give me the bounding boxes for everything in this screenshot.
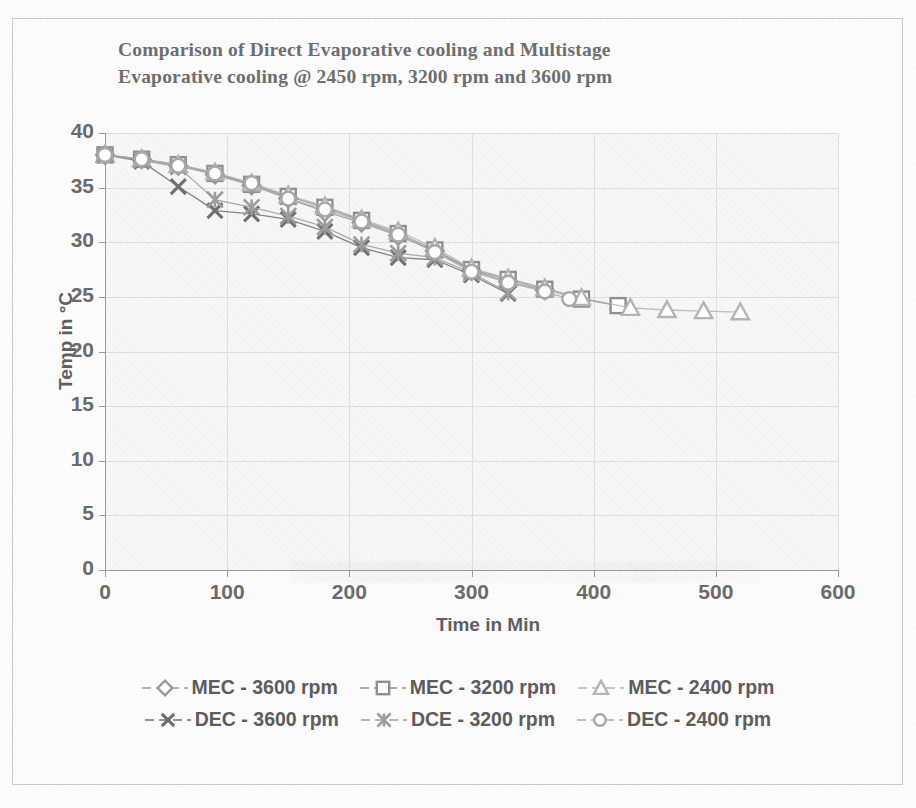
y-tick-label: 30 bbox=[48, 228, 94, 252]
legend-label: DCE - 3200 rpm bbox=[411, 708, 555, 731]
x-tick-label: 400 bbox=[559, 580, 629, 604]
y-tick-label: 35 bbox=[48, 174, 94, 198]
x-tick-mark bbox=[716, 570, 717, 577]
legend-item-mec-3600[interactable]: MEC - 3600 rpm bbox=[142, 676, 338, 699]
y-tick-label: 10 bbox=[48, 447, 94, 471]
chart-title: Comparison of Direct Evaporative cooling… bbox=[118, 36, 818, 90]
y-tick-mark bbox=[99, 242, 106, 243]
legend-marker-triangle-icon bbox=[578, 679, 624, 697]
legend-marker-asterisk-icon bbox=[361, 711, 407, 729]
x-tick-label: 0 bbox=[70, 580, 140, 604]
x-tick-mark bbox=[838, 570, 839, 577]
x-tick-mark bbox=[349, 570, 350, 577]
gridline-vertical bbox=[349, 133, 350, 570]
plot-area bbox=[105, 133, 838, 570]
legend: MEC - 3600 rpm MEC - 3200 rpm MEC - 2400… bbox=[0, 676, 916, 740]
legend-marker-cross-icon bbox=[145, 711, 191, 729]
chart-title-line1: Comparison of Direct Evaporative cooling… bbox=[118, 39, 611, 60]
y-tick-label: 5 bbox=[48, 501, 94, 525]
gridline-vertical bbox=[838, 133, 839, 570]
legend-label: DEC - 2400 rpm bbox=[627, 708, 771, 731]
x-tick-label: 500 bbox=[681, 580, 751, 604]
y-tick-label: 40 bbox=[48, 119, 94, 143]
legend-marker-square-icon bbox=[360, 679, 406, 697]
y-tick-label: 20 bbox=[48, 338, 94, 362]
legend-row-1: MEC - 3600 rpm MEC - 3200 rpm MEC - 2400… bbox=[0, 676, 916, 699]
legend-marker-circle-icon bbox=[577, 711, 623, 729]
legend-item-dec-3600[interactable]: DEC - 3600 rpm bbox=[145, 708, 339, 731]
x-tick-label: 200 bbox=[314, 580, 384, 604]
y-tick-mark bbox=[99, 461, 106, 462]
legend-item-mec-3200[interactable]: MEC - 3200 rpm bbox=[360, 676, 556, 699]
x-tick-mark bbox=[105, 570, 106, 577]
gridline-vertical bbox=[472, 133, 473, 570]
x-tick-mark bbox=[472, 570, 473, 577]
y-tick-label: 0 bbox=[48, 556, 94, 580]
x-tick-label: 300 bbox=[437, 580, 507, 604]
y-tick-mark bbox=[99, 352, 106, 353]
y-tick-label: 15 bbox=[48, 392, 94, 416]
legend-item-mec-2400[interactable]: MEC - 2400 rpm bbox=[578, 676, 774, 699]
x-axis-label: Time in Min bbox=[0, 614, 916, 636]
chart-title-line2: Evaporative cooling @ 2450 rpm, 3200 rpm… bbox=[118, 63, 818, 90]
y-tick-mark bbox=[99, 188, 106, 189]
legend-item-dce-3200[interactable]: DCE - 3200 rpm bbox=[361, 708, 555, 731]
legend-label: MEC - 2400 rpm bbox=[628, 676, 774, 699]
legend-label: DEC - 3600 rpm bbox=[195, 708, 339, 731]
legend-item-dec-2400[interactable]: DEC - 2400 rpm bbox=[577, 708, 771, 731]
x-tick-label: 100 bbox=[192, 580, 262, 604]
legend-label: MEC - 3600 rpm bbox=[192, 676, 338, 699]
gridline-vertical bbox=[716, 133, 717, 570]
y-tick-mark bbox=[99, 406, 106, 407]
x-tick-mark bbox=[594, 570, 595, 577]
y-tick-mark bbox=[99, 133, 106, 134]
legend-row-2: DEC - 3600 rpm DCE - 3200 rpm DEC - 2400… bbox=[0, 708, 916, 731]
y-tick-label: 25 bbox=[48, 283, 94, 307]
gridline-vertical bbox=[594, 133, 595, 570]
x-tick-mark bbox=[227, 570, 228, 577]
y-tick-mark bbox=[99, 297, 106, 298]
y-tick-mark bbox=[99, 515, 106, 516]
legend-marker-diamond-icon bbox=[142, 679, 188, 697]
gridline-vertical bbox=[227, 133, 228, 570]
x-tick-label: 600 bbox=[803, 580, 873, 604]
legend-label: MEC - 3200 rpm bbox=[410, 676, 556, 699]
